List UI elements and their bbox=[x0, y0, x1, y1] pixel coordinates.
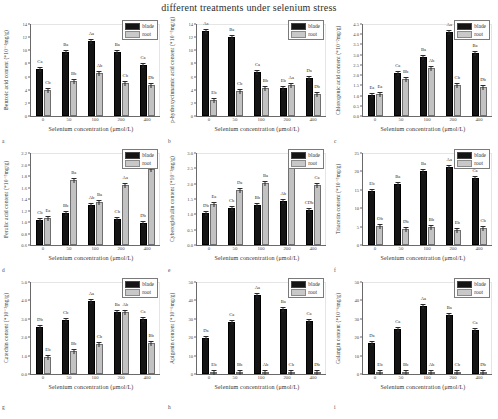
y-tick-label: 5.0 bbox=[21, 280, 27, 285]
error-bar bbox=[265, 86, 266, 91]
bar-root: Eb bbox=[210, 372, 217, 374]
significance-label: Cb bbox=[123, 73, 128, 78]
significance-label: Ba bbox=[71, 170, 76, 175]
error-bar bbox=[91, 203, 92, 208]
panel-letter: g bbox=[2, 404, 5, 410]
significance-label: Cb bbox=[289, 362, 294, 367]
y-tick-label: 0.0 bbox=[353, 114, 359, 119]
error-bar bbox=[449, 30, 450, 35]
bar-root: Cb bbox=[236, 91, 243, 116]
significance-label: Cb bbox=[455, 75, 460, 80]
y-tick-mark bbox=[28, 63, 31, 64]
y-tick-label: 4.0 bbox=[21, 298, 27, 303]
error-bar bbox=[65, 318, 66, 323]
bar-group: CbEa bbox=[33, 153, 55, 245]
chart-panel-g: Catechin content (*10⁻³mg/g)bladeroot0.0… bbox=[0, 274, 166, 411]
panel-letter: h bbox=[168, 404, 171, 410]
bar-group: DaEb bbox=[365, 282, 387, 374]
y-tick-mark bbox=[28, 300, 31, 301]
x-tick-label: 400 bbox=[468, 117, 490, 125]
y-tick-mark bbox=[28, 164, 31, 165]
legend-label-root: root bbox=[308, 31, 317, 37]
y-tick-mark bbox=[194, 282, 197, 283]
x-tick-label: 400 bbox=[302, 117, 324, 125]
x-tick-label: 200 bbox=[276, 246, 298, 254]
legend-label-root: root bbox=[142, 160, 151, 166]
bar-blade: Db bbox=[202, 213, 209, 245]
x-tick-label: 400 bbox=[136, 117, 158, 125]
bar-group: AaAb bbox=[417, 282, 439, 374]
y-tick-label: 25 bbox=[354, 151, 359, 156]
legend-label-blade: blade bbox=[308, 23, 320, 29]
bar-root: Cb bbox=[288, 372, 295, 374]
error-bar bbox=[73, 349, 74, 354]
y-axis-ticks: 02468101214 bbox=[2, 24, 30, 116]
significance-label: Db bbox=[480, 77, 486, 82]
bar-blade: Ca bbox=[394, 329, 401, 374]
x-axis-label: Selenium concentration (μmol/L) bbox=[16, 126, 166, 132]
bar-group: BaBb bbox=[417, 153, 439, 245]
legend-swatch-blade-icon bbox=[291, 152, 306, 159]
legend-label-root: root bbox=[308, 160, 317, 166]
significance-label: Da bbox=[203, 328, 208, 333]
error-bar bbox=[475, 328, 476, 333]
bar-root: Db bbox=[148, 85, 155, 116]
legend-item-blade: blade bbox=[291, 23, 320, 30]
significance-label: Eb bbox=[369, 181, 374, 186]
y-tick-label: 1.8 bbox=[21, 174, 27, 179]
y-tick-mark bbox=[194, 199, 197, 200]
error-bar bbox=[371, 341, 372, 346]
x-tick-label: 100 bbox=[250, 375, 272, 383]
y-axis-ticks: 01020304050 bbox=[334, 282, 362, 374]
bar-blade: Ca bbox=[140, 65, 147, 116]
significance-label: Ca bbox=[141, 55, 146, 60]
legend-label-blade: blade bbox=[474, 23, 486, 29]
y-tick-mark bbox=[28, 222, 31, 223]
legend-swatch-blade-icon bbox=[125, 152, 140, 159]
y-tick-mark bbox=[360, 208, 363, 209]
bar-group: BaAb bbox=[417, 24, 439, 116]
legend-label-blade: blade bbox=[308, 281, 320, 287]
chart-panel-h: Apigenin content (*10⁻⁶mg/g)bladeroot010… bbox=[166, 274, 332, 411]
legend-swatch-root-icon bbox=[291, 31, 306, 38]
bar-blade: Ca bbox=[140, 319, 147, 374]
y-tick-label: 40 bbox=[354, 298, 359, 303]
significance-label: Aa bbox=[255, 285, 260, 290]
y-tick-mark bbox=[28, 187, 31, 188]
bar-group: BbBa bbox=[59, 153, 81, 245]
y-tick-label: 0.5 bbox=[353, 103, 359, 108]
error-bar bbox=[449, 165, 450, 170]
legend-label-blade: blade bbox=[308, 152, 320, 158]
error-bar bbox=[283, 307, 284, 312]
panel-letter: c bbox=[334, 138, 336, 144]
panel-letter: a bbox=[2, 138, 4, 144]
bar-blade: Ba bbox=[446, 315, 453, 374]
bar-root: Bb bbox=[262, 88, 269, 116]
error-bar bbox=[257, 293, 258, 298]
y-tick-mark bbox=[28, 153, 31, 154]
error-bar bbox=[65, 50, 66, 55]
y-tick-mark bbox=[28, 50, 31, 51]
error-bar bbox=[143, 221, 144, 226]
error-bar bbox=[39, 67, 40, 72]
x-tick-label: 200 bbox=[110, 246, 132, 254]
y-tick-mark bbox=[194, 355, 197, 356]
legend-swatch-blade-icon bbox=[457, 152, 472, 159]
bar-root: Bb bbox=[148, 343, 155, 374]
significance-label: Eb bbox=[455, 220, 460, 225]
y-tick-label: 2.0 bbox=[353, 73, 359, 78]
significance-label: Ba bbox=[421, 47, 426, 52]
bar-blade: Eb bbox=[368, 191, 375, 245]
x-tick-label: 0 bbox=[32, 375, 54, 383]
legend-swatch-blade-icon bbox=[457, 23, 472, 30]
significance-label: Db bbox=[314, 84, 320, 89]
significance-label: Bb bbox=[403, 362, 408, 367]
bar-group: EaEa bbox=[365, 24, 387, 116]
significance-label: Ab bbox=[122, 302, 128, 307]
significance-label: Aa bbox=[123, 175, 128, 180]
bar-group: AbBa bbox=[85, 153, 107, 245]
y-tick-label: 1.5 bbox=[187, 197, 193, 202]
legend-swatch-blade-icon bbox=[291, 281, 306, 288]
bar-blade: CDb bbox=[306, 210, 313, 245]
y-tick-mark bbox=[360, 64, 363, 65]
